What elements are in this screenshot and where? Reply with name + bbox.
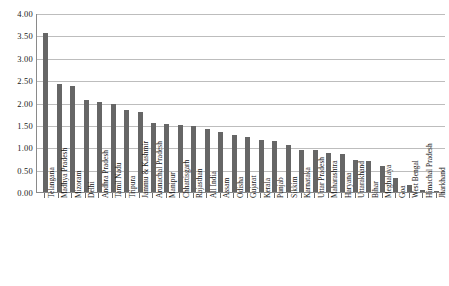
label-slot: Maharashtra [322, 198, 336, 286]
bar-slot [255, 14, 268, 192]
y-axis-tick-label: 3.50 [17, 31, 33, 41]
bar-slot [228, 14, 241, 192]
label-slot: Himachal Pradesh [416, 198, 430, 286]
x-axis-category-label: Maharashtra [331, 161, 339, 199]
label-slot: Jammu & Kashmir [133, 198, 147, 286]
x-axis-labels: TelanganaMadhya PradeshMizoramDelhiAndhr… [36, 198, 445, 286]
x-axis-category-label: Rajasthan [196, 168, 204, 198]
x-axis-category-label: Meghalaya [385, 165, 393, 198]
x-axis-category-label: West Bengal [412, 160, 420, 198]
label-slot: Chhattisgarh [173, 198, 187, 286]
y-axis-tick-label: 0.00 [17, 188, 33, 198]
y-axis-tick-label: 2.50 [17, 76, 33, 86]
bar-slot [241, 14, 254, 192]
y-axis: 4.003.503.002.502.001.501.000.500.00 [0, 0, 36, 200]
x-axis-category-label: Haryana [345, 173, 353, 198]
x-axis-category-label: Madhya Pradesh [61, 148, 69, 198]
label-slot: West Bengal [403, 198, 417, 286]
bar-chart: 4.003.503.002.502.001.501.000.500.00 Tel… [0, 0, 449, 286]
label-slot: Uttar Pradesh [308, 198, 322, 286]
label-slot: Tripura [119, 198, 133, 286]
x-axis-category-label: Himachal Pradesh [426, 143, 434, 198]
x-axis-category-label: Gujarat [250, 175, 258, 198]
y-axis-tick-label: 1.50 [17, 121, 33, 131]
y-axis-tick-label: 0.50 [17, 166, 33, 176]
label-slot: Assam [214, 198, 228, 286]
y-axis-tick-label: 4.00 [17, 9, 33, 19]
label-slot: Bihar [362, 198, 376, 286]
x-axis-category-label: Chhattisgarh [183, 160, 191, 198]
bar-slot [295, 14, 308, 192]
label-slot: Goa [389, 198, 403, 286]
label-slot: Delhi [79, 198, 93, 286]
x-axis-category-label: Tripura [129, 176, 137, 198]
x-axis-category-label: Assam [223, 178, 231, 198]
bar-slot [39, 14, 52, 192]
label-slot: Tamil Nadu [106, 198, 120, 286]
x-axis-category-label: Telangana [48, 167, 56, 198]
bar-slot [281, 14, 294, 192]
label-slot: Rajasthan [187, 198, 201, 286]
x-axis-category-label: Tamil Nadu [115, 163, 123, 199]
x-axis-category-label: Kerala [264, 178, 272, 198]
x-axis-category-label: Goa [399, 186, 407, 198]
y-axis-tick-label: 3.00 [17, 54, 33, 64]
label-slot: Meghalaya [376, 198, 390, 286]
label-slot: Telangana [38, 198, 52, 286]
label-slot: Andhra Pradesh [92, 198, 106, 286]
label-slot: Madhya Pradesh [52, 198, 66, 286]
x-axis-category-label: Mizoram [75, 171, 83, 198]
x-axis-category-label: Uttar Pradesh [318, 157, 326, 198]
bar-slot [214, 14, 227, 192]
x-axis-category-label: Bihar [372, 181, 380, 198]
x-axis-category-label: Manipur [169, 172, 177, 198]
bar [84, 100, 89, 192]
bar-slot [201, 14, 214, 192]
label-slot: Arunachal Pradesh [146, 198, 160, 286]
label-slot: Manipur [160, 198, 174, 286]
label-slot: All India [200, 198, 214, 286]
x-axis-category-label: Karnataka [304, 167, 312, 198]
label-slot: Odisha [227, 198, 241, 286]
x-axis-category-label: Sikkim [291, 176, 299, 198]
x-axis-category-label: Odisha [237, 177, 245, 198]
x-axis-category-label: Delhi [88, 181, 96, 198]
label-slot: Mizoram [65, 198, 79, 286]
x-axis-category-label: All India [210, 171, 218, 198]
label-slot: Uttarakhand [349, 198, 363, 286]
x-axis-category-label: Jammu & Kashmir [142, 141, 150, 198]
bar-slot [268, 14, 281, 192]
label-slot: Karnataka [295, 198, 309, 286]
bar-slot [79, 14, 92, 192]
y-axis-tick-label: 2.00 [17, 99, 33, 109]
label-slot: Jharkhand [430, 198, 444, 286]
x-axis-category-label: Andhra Pradesh [102, 150, 110, 198]
x-axis-category-label: Arunachal Pradesh [156, 141, 164, 198]
x-axis-category-label: Jharkhand [439, 167, 447, 198]
label-slot: Punjab [268, 198, 282, 286]
y-axis-tick-label: 1.00 [17, 143, 33, 153]
label-slot: Gujarat [241, 198, 255, 286]
x-axis-category-label: Punjab [277, 177, 285, 198]
label-slot: Kerala [254, 198, 268, 286]
label-slot: Sikkim [281, 198, 295, 286]
x-axis-category-label: Uttarakhand [358, 161, 366, 198]
label-slot: Haryana [335, 198, 349, 286]
